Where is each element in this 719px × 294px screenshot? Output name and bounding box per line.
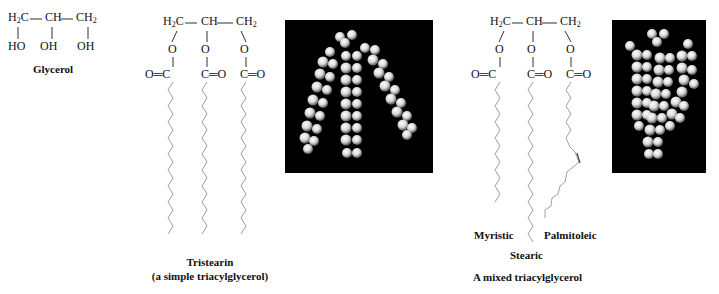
mixed-chain-stearic — [528, 82, 533, 242]
mixed-bonds — [499, 23, 571, 67]
mixed-chain-myristic — [495, 82, 500, 202]
tristearin-space-filling-model — [285, 20, 433, 173]
glycerol-bonds — [18, 19, 88, 39]
tristearin-bonds — [172, 23, 246, 67]
mixed-model-image — [612, 20, 706, 173]
mixed-space-filling-model — [612, 20, 706, 173]
mixed-chain-palmitoleic — [545, 82, 579, 218]
tristearin-chain-2 — [202, 82, 207, 234]
tristearin-chain-3 — [241, 82, 246, 234]
tristearin-model-image — [285, 20, 433, 173]
tristearin-chain-1 — [168, 82, 173, 234]
